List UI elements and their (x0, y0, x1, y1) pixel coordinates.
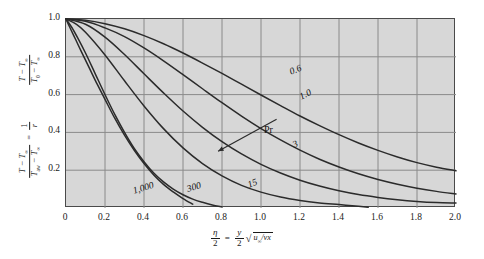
y-label-bottom-denominator: Taw − T∞ (30, 145, 42, 178)
y-axis-label: T − T∞ T0 − T∞ T − T∞ Taw − T∞ = 1 r (6, 18, 56, 207)
x-tick-label: 2.0 (440, 212, 470, 222)
y-label-top-denominator: T0 − T∞ (30, 55, 42, 85)
y-label-r-denominator: r (30, 122, 40, 130)
x-tick-label: 0 (50, 212, 80, 222)
y-label-fraction-top: T − T∞ T0 − T∞ (18, 55, 42, 85)
x-tick-label: 0.2 (89, 212, 119, 222)
x-tick-label: 0.4 (128, 212, 158, 222)
y-label-fraction-bottom: T − T∞ Taw − T∞ (18, 145, 42, 178)
x-label-two: 2 (211, 238, 220, 249)
y-label-equals-sign: = (24, 132, 34, 143)
x-tick-label: 1.2 (284, 212, 314, 222)
x-label-under-radical: u∞/νx (253, 232, 273, 244)
annotation-arrow-layer (66, 19, 456, 208)
x-label-y: y (235, 228, 244, 238)
x-axis-label: η 2 = y 2 √u∞/νx (0, 228, 484, 248)
x-label-eta: η (211, 228, 220, 238)
x-label-equals-sign: = (222, 233, 233, 243)
x-tick-label: 1.8 (401, 212, 431, 222)
x-label-radical-sign: √ (246, 233, 252, 244)
y-label-fraction-reciprocal-r: 1 r (20, 122, 39, 130)
x-tick-label: 1.4 (323, 212, 353, 222)
plot-area (65, 18, 455, 207)
y-label-bottom-numerator: T − T∞ (18, 145, 29, 178)
chart-figure: 0.20.40.60.81.0 00.20.40.60.81.01.21.41.… (0, 0, 484, 259)
x-tick-label: 0.6 (167, 212, 197, 222)
y-label-r-numerator: 1 (20, 122, 29, 130)
x-tick-label: 1.6 (362, 212, 392, 222)
y-axis-label-bottom: T − T∞ Taw − T∞ = 1 r (18, 100, 42, 200)
x-label-y-over-2: y 2 (235, 228, 244, 248)
y-label-top-numerator: T − T∞ (18, 55, 29, 85)
pr-annotation-label: Pr (264, 124, 273, 135)
x-tick-label: 1.0 (245, 212, 275, 222)
x-label-eta-over-2: η 2 (211, 228, 220, 248)
x-label-two-b: 2 (235, 238, 244, 249)
x-tick-label: 0.8 (206, 212, 236, 222)
